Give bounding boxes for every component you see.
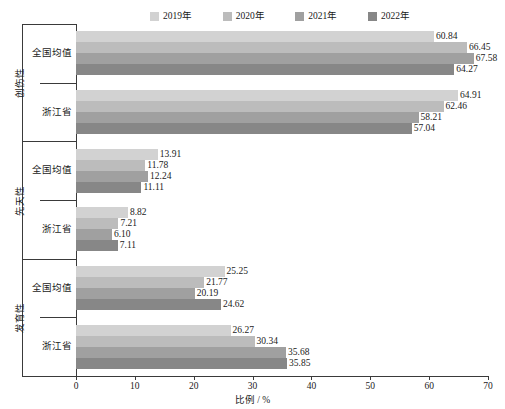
- y-axis-group-label: 先天性: [15, 180, 26, 220]
- x-tick-label: 0: [61, 381, 91, 392]
- bar-value-label: 35.68: [288, 347, 309, 358]
- y-axis-category-label: 浙江省: [26, 341, 72, 352]
- bar-value-label: 57.04: [414, 123, 435, 134]
- x-axis-label: 比例 / %: [0, 392, 505, 406]
- x-tick-label: 30: [238, 381, 268, 392]
- bar: [76, 53, 474, 64]
- legend-item-2021年[interactable]: 2021年: [295, 11, 337, 21]
- legend-label: 2020年: [236, 11, 265, 21]
- bar-value-label: 12.24: [150, 171, 171, 182]
- bar-value-label: 67.58: [476, 53, 497, 64]
- bar: [76, 101, 444, 112]
- y-axis-category-label: 全国均值: [26, 165, 72, 176]
- bar-value-label: 8.82: [130, 207, 147, 218]
- bar-value-label: 24.62: [223, 299, 244, 310]
- bar-value-label: 35.85: [289, 358, 310, 369]
- bar-value-label: 26.27: [233, 325, 254, 336]
- bar: [76, 266, 225, 277]
- bar: [76, 123, 412, 134]
- plot-area: [76, 24, 489, 376]
- y-axis-category-label: 浙江省: [26, 107, 72, 118]
- x-tick-mark: [253, 376, 254, 380]
- legend-swatch-icon: [150, 12, 159, 21]
- bar: [76, 218, 118, 229]
- bar-value-label: 25.25: [227, 266, 248, 277]
- bar: [76, 171, 148, 182]
- chart-legend: 2019年2020年2021年2022年: [150, 8, 410, 24]
- bar-value-label: 21.77: [206, 277, 227, 288]
- x-tick-label: 10: [120, 381, 150, 392]
- x-tick-label: 20: [179, 381, 209, 392]
- bar-value-label: 30.34: [257, 336, 278, 347]
- bar: [76, 160, 145, 171]
- bar: [76, 277, 204, 288]
- bar: [76, 240, 118, 251]
- y-axis-category-label: 全国均值: [26, 283, 72, 294]
- x-tick-mark: [135, 376, 136, 380]
- x-tick-label: 50: [355, 381, 385, 392]
- bar-value-label: 64.27: [456, 64, 477, 75]
- bar: [76, 90, 458, 101]
- x-tick-mark: [194, 376, 195, 380]
- legend-item-2019年[interactable]: 2019年: [150, 11, 192, 21]
- bar-value-label: 7.11: [120, 240, 136, 251]
- y-axis-bottom-cap: [22, 376, 76, 377]
- bar: [76, 182, 141, 193]
- x-tick-label: 60: [414, 381, 444, 392]
- bar-value-label: 58.21: [421, 112, 442, 123]
- y-axis-category-label: 全国均值: [26, 48, 72, 59]
- bar: [76, 31, 434, 42]
- legend-swatch-icon: [368, 12, 377, 21]
- legend-swatch-icon: [223, 12, 232, 21]
- bar-value-label: 64.91: [460, 90, 481, 101]
- x-tick-mark: [311, 376, 312, 380]
- y-axis-group-label: 发育性: [15, 297, 26, 337]
- bar: [76, 42, 467, 53]
- legend-label: 2022年: [381, 11, 410, 21]
- y-axis-group-label: 创伤性: [15, 63, 26, 103]
- legend-label: 2019年: [163, 11, 192, 21]
- bar-value-label: 7.21: [120, 218, 137, 229]
- x-axis-line: [76, 376, 488, 377]
- bar-value-label: 66.45: [469, 42, 490, 53]
- group-separator: [22, 259, 76, 260]
- legend-label: 2021年: [308, 11, 337, 21]
- legend-item-2022年[interactable]: 2022年: [368, 11, 410, 21]
- x-tick-mark: [370, 376, 371, 380]
- bar-value-label: 62.46: [446, 101, 467, 112]
- x-tick-mark: [76, 376, 77, 380]
- group-separator: [22, 141, 76, 142]
- legend-item-2020年[interactable]: 2020年: [223, 11, 265, 21]
- bar-value-label: 13.91: [160, 149, 181, 160]
- bar-value-label: 60.84: [436, 31, 457, 42]
- bar: [76, 325, 231, 336]
- bar: [76, 149, 158, 160]
- y-axis-top-cap: [22, 24, 76, 25]
- x-tick-label: 40: [296, 381, 326, 392]
- subcategory-separator: [40, 83, 76, 84]
- bar: [76, 347, 286, 358]
- bar-value-label: 11.78: [147, 160, 168, 171]
- bar-value-label: 20.19: [197, 288, 218, 299]
- subcategory-separator: [40, 317, 76, 318]
- bar: [76, 64, 454, 75]
- bar: [76, 288, 195, 299]
- bar: [76, 336, 255, 347]
- bar: [76, 112, 419, 123]
- x-tick-mark: [488, 376, 489, 380]
- legend-swatch-icon: [295, 12, 304, 21]
- y-axis-category-label: 浙江省: [26, 224, 72, 235]
- bar: [76, 207, 128, 218]
- bar: [76, 229, 112, 240]
- x-tick-mark: [429, 376, 430, 380]
- bar: [76, 358, 287, 369]
- chart-figure: 2019年2020年2021年2022年 010203040506070 创伤性…: [0, 0, 505, 409]
- bar-value-label: 6.10: [114, 229, 131, 240]
- x-tick-label: 70: [473, 381, 503, 392]
- bar: [76, 299, 221, 310]
- bar-value-label: 11.11: [143, 182, 164, 193]
- subcategory-separator: [40, 200, 76, 201]
